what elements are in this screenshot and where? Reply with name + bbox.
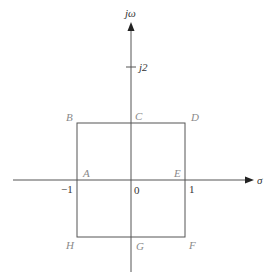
point-e-label: E (174, 168, 181, 179)
one-tick-label: 1 (189, 184, 195, 195)
point-g-label: G (136, 241, 144, 252)
jw-axis-label: jω (125, 8, 136, 19)
jw-axis-arrow-icon (128, 22, 135, 31)
point-a-label: A (83, 168, 90, 179)
s-plane-diagram (0, 0, 274, 278)
point-c-label: C (135, 111, 142, 122)
point-h-label: H (66, 240, 74, 251)
point-d-label: D (191, 112, 199, 123)
sigma-axis-label: σ (257, 175, 262, 186)
minus-one-tick-label: −1 (61, 184, 73, 195)
j2-tick-label: j2 (139, 62, 148, 73)
sigma-axis-arrow-icon (245, 177, 254, 184)
origin-tick-label: 0 (134, 185, 140, 196)
point-b-label: B (66, 112, 73, 123)
point-f-label: F (189, 240, 196, 251)
